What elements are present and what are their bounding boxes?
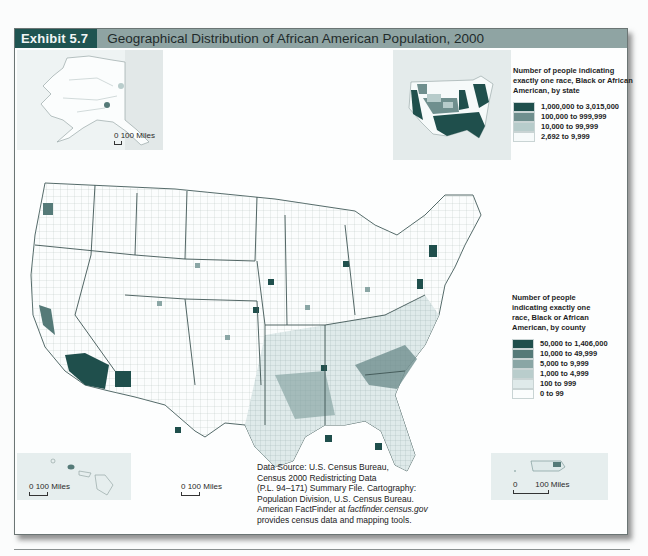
state-legend: Number of people indicating exactly one … bbox=[513, 66, 633, 142]
county-legend-item: 0 to 99 bbox=[512, 389, 608, 399]
state-level-inset bbox=[393, 50, 511, 160]
hawaii-scale-bar: 0 100 Miles bbox=[29, 482, 70, 491]
exhibit-frame: Exhibit 5.7 Geographical Distribution of… bbox=[14, 28, 628, 535]
alaska-inset: 0 100 Miles bbox=[17, 50, 163, 150]
factfinder-link[interactable]: factfinder.census.gov bbox=[348, 504, 428, 514]
alaska-scale-bar: 0 100 Miles bbox=[114, 131, 155, 140]
data-source-note: Data Source: U.S. Census Bureau, Census … bbox=[257, 462, 467, 525]
state-level-map bbox=[393, 50, 511, 160]
puerto-rico-inset: 0 100 Miles bbox=[491, 453, 608, 500]
county-legend-item: 1,000 to 4,999 bbox=[512, 369, 608, 379]
puerto-rico-scale-bar: 0 100 Miles bbox=[513, 480, 569, 489]
county-legend-item: 5,000 to 9,999 bbox=[512, 359, 608, 369]
county-choropleth-map bbox=[25, 175, 505, 475]
state-legend-item: 2,692 to 9,999 bbox=[513, 132, 633, 142]
county-legend: Number of people indicating exactly one … bbox=[512, 293, 608, 399]
state-legend-item: 1,000,000 to 3,015,000 bbox=[513, 102, 633, 112]
exhibit-title: Geographical Distribution of African Ame… bbox=[97, 31, 484, 46]
mainland-scale-bar: 0 100 Miles bbox=[181, 482, 222, 491]
state-legend-item: 100,000 to 999,999 bbox=[513, 112, 633, 122]
county-legend-item: 10,000 to 49,999 bbox=[512, 349, 608, 359]
exhibit-label: Exhibit 5.7 bbox=[15, 29, 97, 48]
puerto-rico-map bbox=[491, 453, 608, 500]
state-legend-item: 10,000 to 99,999 bbox=[513, 122, 633, 132]
county-legend-item: 50,000 to 1,406,000 bbox=[512, 339, 608, 349]
state-legend-heading: Number of people indicating exactly one … bbox=[513, 66, 633, 96]
title-bar: Exhibit 5.7 Geographical Distribution of… bbox=[15, 29, 627, 48]
page-divider bbox=[14, 549, 630, 550]
hawaii-inset: 0 100 Miles bbox=[17, 453, 131, 500]
county-legend-heading: Number of people indicating exactly one … bbox=[512, 293, 602, 333]
county-legend-item: 100 to 999 bbox=[512, 379, 608, 389]
